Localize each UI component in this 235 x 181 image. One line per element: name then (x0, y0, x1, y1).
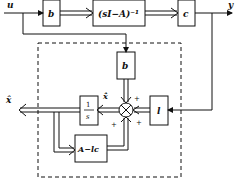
block-diagram: u y b (sI−A)⁻¹ c b l 1 s A−lc x̂ x̂̇ + +… (0, 0, 235, 181)
plant-c-label: c (183, 9, 189, 19)
sum-sign-left: + (111, 121, 117, 129)
output-label: y (227, 0, 234, 10)
observer-b-label: b (122, 61, 128, 71)
estimate-label: x̂ (5, 95, 12, 105)
estimate-derivative-label: x̂̇ (102, 91, 108, 101)
input-label: u (7, 0, 14, 10)
vector-arrow-icon (86, 8, 93, 18)
plant-b-label: b (48, 9, 54, 19)
integrator-den: s (86, 113, 90, 121)
feedback-label: A−lc (77, 144, 99, 154)
plant-tf-label: (sI−A)⁻¹ (98, 9, 139, 19)
sum-sign-top: + (134, 95, 140, 103)
estimate-output-arrow (19, 104, 26, 116)
integrator-num: 1 (86, 101, 90, 109)
gain-l-label: l (157, 106, 161, 116)
output-feedback-line (168, 13, 212, 110)
sum-sign-right: + (136, 119, 142, 127)
